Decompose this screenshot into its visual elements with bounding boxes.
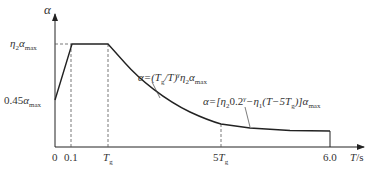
x-tick-tg: Tg [103,151,113,166]
response-spectrum-diagram: α η2αmax 0.45αmax 0 0.1 Tg 5Tg 6.0 T/s α… [0,0,380,172]
x-tick-6: 6.0 [323,151,337,163]
x-tick-5tg: 5Tg [213,151,229,166]
x-tick-0.1: 0.1 [64,151,78,163]
x-tick-0: 0 [52,151,58,163]
y-tick-top: η2αmax [10,37,37,52]
y-axis-label: α [44,2,52,17]
spectrum-curve [55,44,330,131]
linear-annotation-leader [245,107,250,127]
linear-formula: α=[η20.2γ−η1(T−5Tg)]αmax [203,95,321,110]
curve-annotation-leader [152,82,160,98]
curve-formula: α=(Tg/T)γη2αmax [138,71,207,86]
y-tick-bottom: 0.45αmax [4,94,42,109]
x-axis-label: T/s [350,151,363,163]
